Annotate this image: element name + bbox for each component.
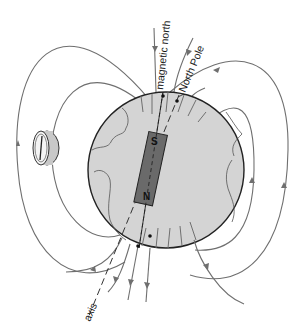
compass-icon xyxy=(33,131,59,165)
magnetic-south-point xyxy=(136,244,140,248)
field-line-bottom-1 xyxy=(66,238,122,272)
field-line-bottom-4 xyxy=(146,248,150,302)
magnetic-north-label: magnetic north xyxy=(153,20,172,90)
axis-label: axis xyxy=(81,301,99,323)
field-line-bottom-2 xyxy=(108,244,130,292)
magnet-south-pole-label: S xyxy=(151,136,158,147)
south-pole-point xyxy=(148,234,152,238)
earth-globe xyxy=(88,92,244,248)
magnetic-north-point xyxy=(161,94,165,98)
field-line-bottom-5 xyxy=(194,240,244,304)
field-line-bottom-3 xyxy=(128,246,138,300)
arrow-icon xyxy=(213,67,220,73)
field-line-top-3 xyxy=(192,88,205,96)
north-pole-point xyxy=(175,99,179,103)
magnet-north-pole-label: N xyxy=(143,191,150,202)
magnetic-field-diagram: S N magnetic north North Pole axis xyxy=(0,0,304,329)
arrow-icon xyxy=(144,282,150,289)
